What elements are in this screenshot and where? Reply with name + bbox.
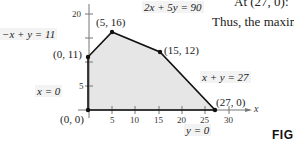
vertex-label-27-0: (27, 0) [216, 96, 245, 108]
vertex-label-0-11: (0, 11) [53, 48, 82, 60]
constraint-label-2x-plus-5y: 2x + 5y = 90 [142, 1, 204, 13]
figure-caption: FIGU [272, 128, 294, 142]
vertex-label-15-12: (15, 12) [164, 44, 199, 56]
linear-programming-figure: 20 5 5 10 15 20 25 30 x (5, 16) (0, 11) … [0, 0, 294, 148]
x-tick-label-10: 10 [130, 115, 139, 125]
constraint-label-x-eq-0: x = 0 [35, 85, 62, 97]
x-axis-arrow-icon [245, 108, 252, 112]
vertex-0-0 [86, 108, 90, 112]
vertex-label-0-0: (0, 0) [60, 113, 84, 125]
constraint-label-y-eq-0: y = 0 [184, 124, 211, 136]
vertex-label-5-16: (5, 16) [96, 16, 125, 28]
body-text-line-2: Thus, the maxim [212, 14, 294, 30]
y-tick-label-20: 20 [72, 9, 81, 19]
body-text-line-1: At (27, 0): [234, 0, 289, 10]
vertex-0-11 [86, 55, 90, 59]
x-tick-label-15: 15 [154, 115, 163, 125]
vertex-15-12 [158, 50, 162, 54]
vertex-27-0 [213, 108, 217, 112]
x-tick-label-5: 5 [110, 115, 115, 125]
y-tick-label-5: 5 [79, 81, 84, 91]
constraint-label-neg-x-plus-y: −x + y = 11 [0, 28, 57, 40]
x-tick-label-30: 30 [224, 115, 233, 125]
constraint-label-x-plus-y: x + y = 27 [200, 71, 251, 83]
x-axis-label: x [254, 104, 258, 114]
vertex-5-16 [110, 30, 114, 34]
